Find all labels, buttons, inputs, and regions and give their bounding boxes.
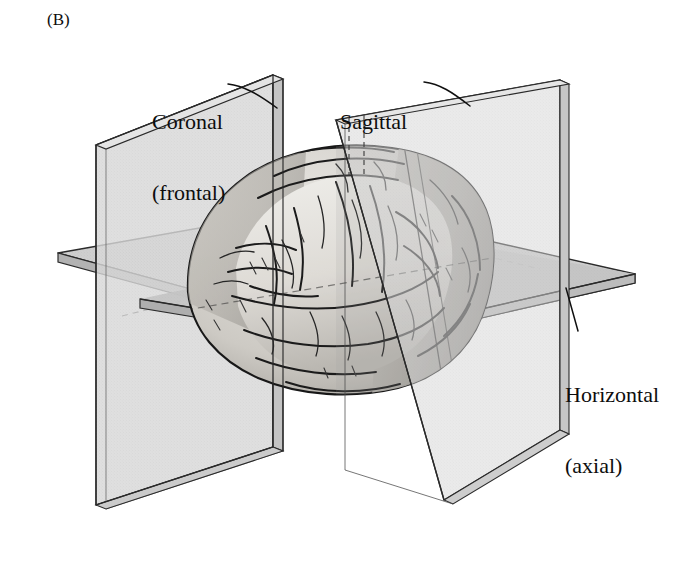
figure-panel: (B) Coronal (frontal) Sagittal Horizonta…: [0, 0, 677, 586]
label-coronal-line1: Coronal: [152, 110, 225, 134]
panel-letter: (B): [47, 11, 70, 29]
label-horizontal-line2: (axial): [565, 454, 659, 478]
label-sagittal: Sagittal: [340, 62, 407, 181]
label-sagittal-line1: Sagittal: [340, 110, 407, 134]
label-coronal: Coronal (frontal): [152, 62, 225, 252]
label-coronal-line2: (frontal): [152, 181, 225, 205]
label-horizontal: Horizontal (axial): [565, 335, 659, 525]
label-horizontal-line1: Horizontal: [565, 383, 659, 407]
